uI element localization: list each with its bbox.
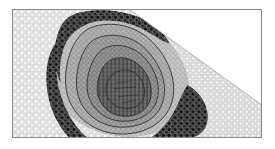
figure-root: [0, 0, 275, 149]
map-frame: [12, 9, 262, 138]
map-canvas: [13, 10, 261, 137]
